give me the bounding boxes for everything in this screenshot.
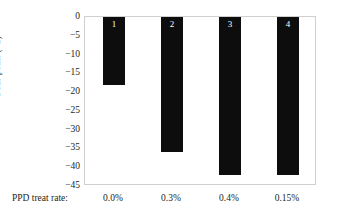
y-axis-tick-label: 0: [52, 11, 80, 21]
plot-inner: 1234: [85, 17, 315, 184]
bar: 1: [103, 17, 125, 85]
bar-value-label: 2: [161, 19, 183, 29]
x-axis-tick-label: 0.3%: [148, 191, 194, 205]
y-axis-tick-label: −40: [52, 161, 80, 171]
y-axis-tick-label: −15: [52, 67, 80, 77]
y-axis-title: Pour point (°C): [0, 11, 4, 121]
bar: 4: [277, 17, 299, 175]
y-axis-tick-label: −45: [52, 180, 80, 190]
x-axis-tick-label: 0.15%: [264, 191, 310, 205]
y-axis-tick-label: −20: [52, 86, 80, 96]
bar: 2: [161, 17, 183, 152]
y-axis-tick-label: −35: [52, 142, 80, 152]
x-axis-row: PPD treat rate: 0.0%0.3%0.4%0.15%: [0, 191, 338, 207]
y-axis-tick-label: −30: [52, 124, 80, 134]
y-axis-tick-labels: 0−5−10−15−20−25−30−35−40−45: [52, 0, 80, 219]
bar-value-label: 3: [219, 19, 241, 29]
plot-area: 1234: [84, 16, 316, 185]
bar-value-label: 4: [277, 19, 299, 29]
y-axis-tick-label: −5: [52, 30, 80, 40]
bar-value-label: 1: [103, 19, 125, 29]
x-axis-title: PPD treat rate:: [12, 191, 68, 205]
y-axis-tick-label: −10: [52, 49, 80, 59]
bar: 3: [219, 17, 241, 175]
y-axis-tick-label: −25: [52, 105, 80, 115]
x-axis-tick-label: 0.0%: [90, 191, 136, 205]
bar-chart-figure: Pour point (°C) 0−5−10−15−20−25−30−35−40…: [0, 0, 338, 219]
x-axis-tick-label: 0.4%: [206, 191, 252, 205]
